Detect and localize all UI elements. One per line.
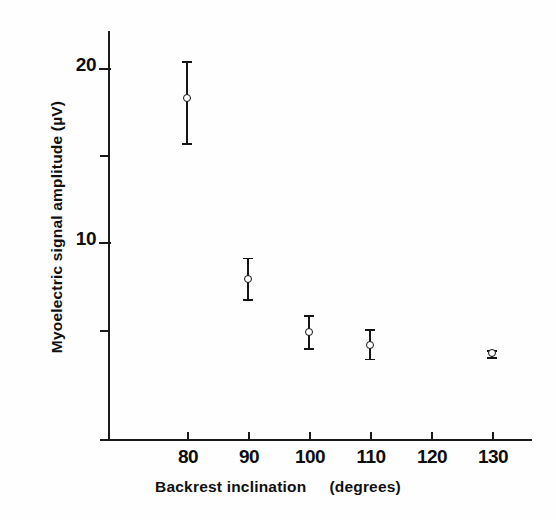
error-cap-lower [304, 348, 314, 350]
y-tick-10 [99, 242, 111, 244]
x-axis-title: Backrest inclination (degrees) [0, 478, 556, 496]
x-tick-110 [370, 432, 372, 441]
y-tick-5 [100, 330, 110, 332]
y-tick-20 [99, 68, 111, 70]
error-bar [186, 61, 188, 143]
error-cap-lower [243, 299, 253, 301]
x-tick-label-120: 120 [402, 446, 462, 468]
y-tick-label-10: 10 [50, 228, 96, 250]
x-tick-130 [492, 432, 494, 441]
x-tick-label-100: 100 [280, 446, 340, 468]
error-cap-upper [182, 61, 192, 63]
data-point-marker [183, 94, 191, 102]
error-cap-lower [182, 143, 192, 145]
x-tick-label-90: 90 [219, 446, 279, 468]
error-cap-upper [365, 329, 375, 331]
x-axis-line [100, 439, 532, 441]
x-tick-label-80: 80 [158, 446, 218, 468]
x-axis-title-main: Backrest inclination [155, 478, 306, 495]
plot-area: 20 10 80 90 100 110 120 130 [0, 0, 556, 520]
data-point-marker [244, 275, 252, 283]
error-cap-upper [243, 258, 253, 260]
x-tick-label-110: 110 [341, 446, 401, 468]
x-tick-90 [248, 432, 250, 441]
x-tick-label-130: 130 [463, 446, 523, 468]
y-tick-15 [100, 155, 110, 157]
chart-figure: Myoelectric signal amplitude (µV) 20 10 … [0, 0, 556, 520]
data-point-marker [305, 328, 313, 336]
x-tick-100 [309, 432, 311, 441]
error-cap-lower [487, 357, 497, 359]
x-tick-120 [431, 432, 433, 441]
y-tick-label-20: 20 [50, 54, 96, 76]
x-axis-title-unit: (degrees) [329, 478, 401, 495]
error-cap-upper [304, 315, 314, 317]
x-tick-80 [187, 432, 189, 441]
y-axis-line [108, 31, 110, 440]
error-cap-lower [365, 359, 375, 361]
data-point-marker [366, 341, 374, 349]
